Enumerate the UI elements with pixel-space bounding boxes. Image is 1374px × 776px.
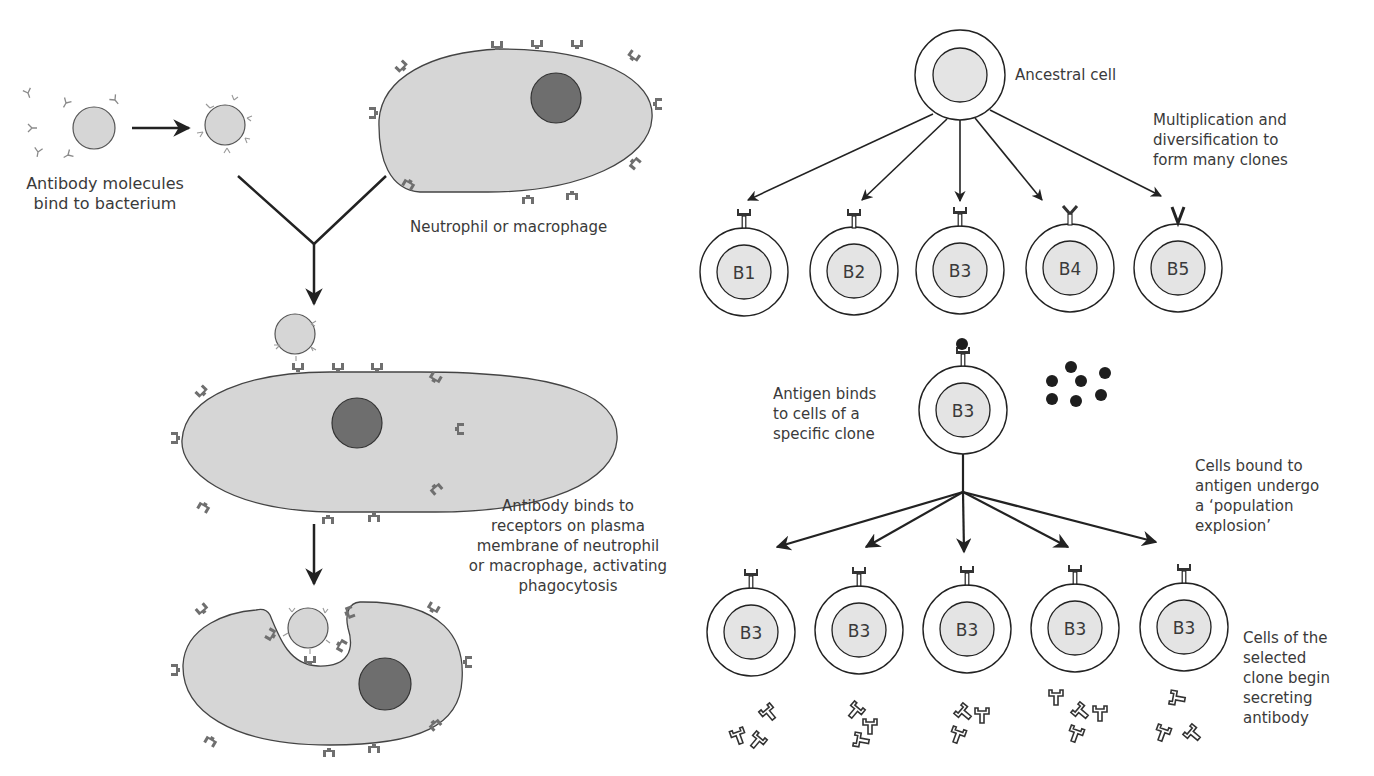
label-ancestral-cell: Ancestral cell: [1015, 65, 1116, 85]
clone-B1: B1: [700, 209, 788, 316]
clone-B2: B2: [810, 209, 898, 315]
svg-text:B2: B2: [843, 262, 865, 282]
expanded-clone-4: B3: [1031, 565, 1119, 672]
diversification-arrows: [748, 110, 1161, 201]
svg-text:B1: B1: [733, 263, 755, 283]
label-secreting: Cells of the selected clone begin secret…: [1243, 628, 1330, 728]
expanded-clone-5: B3: [1140, 564, 1228, 671]
label-phagocyte: Neutrophil or macrophage: [410, 217, 607, 237]
svg-text:B4: B4: [1059, 259, 1081, 279]
label-population-explosion: Cells bound to antigen undergo a ‘popula…: [1195, 456, 1319, 536]
svg-text:B3: B3: [949, 261, 971, 281]
secreted-antibodies: [729, 690, 1203, 751]
nucleus: [531, 73, 581, 123]
bound-bacterium: [274, 314, 316, 361]
clone-B5: B5: [1134, 207, 1222, 312]
bacterium: [73, 107, 115, 149]
label-antigen-binds: Antigen binds to cells of a specific clo…: [773, 384, 876, 444]
merge-arrow: [238, 176, 386, 304]
bound-antigen: [956, 338, 968, 350]
label-multiplication: Multiplication and diversification to fo…: [1153, 110, 1288, 170]
clone-B4: B4: [1026, 206, 1114, 312]
expanded-clone-3: B3: [923, 566, 1011, 673]
svg-text:B3: B3: [956, 620, 978, 640]
clone-B3: B3: [916, 207, 1004, 314]
svg-text:B3: B3: [848, 621, 870, 641]
svg-text:B3: B3: [1064, 619, 1086, 639]
svg-text:B5: B5: [1167, 259, 1189, 279]
engulfing-phagocyte: [171, 601, 472, 757]
svg-text:B3: B3: [952, 401, 974, 421]
label-antibody-bind: Antibody molecules bind to bacterium: [20, 174, 190, 214]
expanded-clone-2: B3: [815, 567, 903, 674]
opsonized-bacterium: [197, 95, 252, 153]
free-antigens: [1046, 361, 1111, 407]
svg-text:B3: B3: [740, 623, 762, 643]
phagocyte-cell: [369, 40, 662, 204]
ancestral-cell: [915, 30, 1005, 120]
label-receptor-binding: Antibody binds to receptors on plasma me…: [448, 496, 688, 596]
selected-clone-cell: B3: [919, 338, 1007, 454]
expansion-arrows: [777, 454, 1156, 552]
expanded-clone-1: B3: [707, 569, 795, 676]
svg-text:B3: B3: [1173, 618, 1195, 638]
